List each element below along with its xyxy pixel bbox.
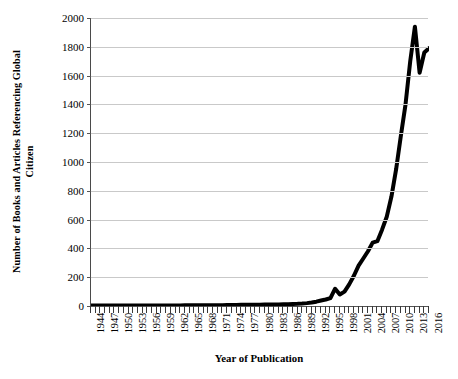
x-tick-mark-1991: [311, 306, 312, 313]
x-tick-mark-2008: [390, 306, 391, 313]
x-tick-mark-1965: [189, 306, 190, 313]
y-tick-label-1600: 1600: [62, 70, 84, 82]
x-tick-mark-2003: [367, 306, 368, 313]
x-tick-label-2013: 2013: [418, 313, 429, 333]
x-tick-mark-1977: [245, 306, 246, 313]
y-axis-title-container: Number of Books and Articles Referencing…: [0, 0, 46, 322]
x-tick-mark-1953: [132, 306, 133, 313]
x-tick-mark-2002: [362, 306, 363, 313]
x-tick-mark-1986: [287, 306, 288, 313]
gridline-1000: [91, 162, 428, 163]
chart-figure: Number of Books and Articles Referencing…: [0, 0, 458, 379]
x-tick-mark-1946: [99, 306, 100, 313]
x-tick-mark-1975: [236, 306, 237, 313]
x-tick-mark-1949: [113, 306, 114, 313]
x-tick-mark-1981: [264, 306, 265, 313]
x-tick-mark-1955: [142, 306, 143, 313]
y-axis-title-line-1: Number of Books and Articles Referencing…: [11, 50, 22, 273]
x-tick-label-1977: 1977: [249, 313, 260, 333]
x-tick-mark-1966: [193, 306, 194, 313]
x-tick-mark-1971: [217, 306, 218, 313]
x-tick-label-1974: 1974: [235, 313, 246, 333]
gridline-1800: [91, 47, 428, 48]
y-tick-mark-200: [87, 277, 91, 278]
x-tick-mark-1967: [198, 306, 199, 313]
x-tick-label-2001: 2001: [362, 313, 373, 333]
x-tick-mark-1951: [123, 306, 124, 313]
x-tick-label-1986: 1986: [292, 313, 303, 333]
x-tick-mark-1993: [320, 306, 321, 313]
gridline-600: [91, 220, 428, 221]
y-tick-label-1800: 1800: [62, 41, 84, 53]
x-tick-mark-1987: [292, 306, 293, 313]
x-tick-mark-2009: [395, 306, 396, 313]
x-tick-label-1965: 1965: [193, 313, 204, 333]
x-tick-mark-1956: [146, 306, 147, 313]
y-tick-label-2000: 2000: [62, 12, 84, 24]
x-tick-mark-1969: [207, 306, 208, 313]
x-tick-mark-1992: [315, 306, 316, 313]
x-tick-mark-1989: [301, 306, 302, 313]
x-tick-label-1980: 1980: [264, 313, 275, 333]
y-axis-title: Number of Books and Articles Referencing…: [11, 50, 36, 273]
x-tick-label-1953: 1953: [137, 313, 148, 333]
x-tick-mark-2016: [428, 306, 429, 313]
x-tick-mark-2001: [358, 306, 359, 313]
x-tick-mark-1948: [109, 306, 110, 313]
x-tick-mark-1970: [212, 306, 213, 313]
x-tick-label-2010: 2010: [404, 313, 415, 333]
x-tick-mark-1996: [334, 306, 335, 313]
y-axis-title-line-2: Citizen: [23, 50, 36, 273]
y-tick-label-200: 200: [68, 271, 85, 283]
x-axis-title: Year of Publication: [90, 352, 428, 364]
x-tick-mark-1988: [297, 306, 298, 313]
x-tick-mark-2004: [372, 306, 373, 313]
x-tick-mark-2005: [376, 306, 377, 313]
x-tick-label-1956: 1956: [151, 313, 162, 333]
x-tick-label-1971: 1971: [221, 313, 232, 333]
y-tick-label-1000: 1000: [62, 156, 84, 168]
x-tick-mark-1982: [268, 306, 269, 313]
x-tick-mark-1976: [240, 306, 241, 313]
x-tick-mark-1997: [339, 306, 340, 313]
x-tick-label-1962: 1962: [179, 313, 190, 333]
y-tick-label-1200: 1200: [62, 127, 84, 139]
x-tick-mark-2013: [414, 306, 415, 313]
y-tick-mark-1000: [87, 162, 91, 163]
x-tick-label-1998: 1998: [348, 313, 359, 333]
gridline-1600: [91, 76, 428, 77]
gridline-200: [91, 277, 428, 278]
x-tick-mark-1983: [273, 306, 274, 313]
x-tick-mark-2014: [419, 306, 420, 313]
x-tick-mark-2007: [386, 306, 387, 313]
y-tick-label-1400: 1400: [62, 98, 84, 110]
x-axis-tick-marks: [90, 306, 428, 313]
x-tick-mark-2000: [353, 306, 354, 313]
y-tick-mark-600: [87, 220, 91, 221]
x-tick-mark-2010: [400, 306, 401, 313]
x-tick-label-1992: 1992: [320, 313, 331, 333]
y-tick-mark-1600: [87, 76, 91, 77]
x-tick-mark-2006: [381, 306, 382, 313]
x-tick-mark-1958: [156, 306, 157, 313]
plot-area: [90, 18, 428, 306]
x-tick-mark-1945: [95, 306, 96, 313]
x-tick-mark-1957: [151, 306, 152, 313]
x-tick-mark-1998: [344, 306, 345, 313]
x-tick-mark-1952: [128, 306, 129, 313]
x-tick-mark-2012: [409, 306, 410, 313]
x-tick-mark-1963: [179, 306, 180, 313]
x-tick-mark-1979: [254, 306, 255, 313]
x-tick-mark-1978: [250, 306, 251, 313]
x-tick-mark-1995: [329, 306, 330, 313]
y-tick-mark-400: [87, 248, 91, 249]
x-tick-mark-1972: [221, 306, 222, 313]
x-tick-mark-1944: [90, 306, 91, 313]
x-tick-label-1983: 1983: [278, 313, 289, 333]
x-tick-mark-1960: [165, 306, 166, 313]
x-tick-mark-2015: [423, 306, 424, 313]
y-tick-mark-1800: [87, 47, 91, 48]
gridline-400: [91, 248, 428, 249]
y-tick-label-800: 800: [68, 185, 85, 197]
x-tick-label-1995: 1995: [334, 313, 345, 333]
